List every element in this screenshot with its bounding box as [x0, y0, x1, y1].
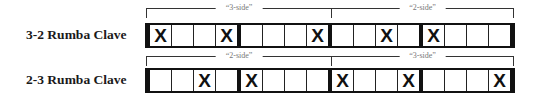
- grid-cell: [263, 70, 285, 91]
- grid-cell: [172, 70, 194, 91]
- grid-cell: [172, 25, 194, 46]
- grid-cell: [307, 70, 332, 91]
- grid-cell: [376, 70, 398, 91]
- side-bracket-right: “3-side”: [331, 56, 514, 66]
- grid-cell: [489, 25, 510, 46]
- grid-cell: [467, 25, 489, 46]
- row-label: 2-3 Rumba Clave: [26, 72, 136, 88]
- grid-cell: [332, 25, 354, 46]
- side-bracket-left: “3-side”: [146, 8, 332, 18]
- side-label: “2-side”: [399, 3, 446, 13]
- grid-cell: [467, 70, 489, 91]
- side-bracket-right: “2-side”: [331, 8, 514, 18]
- row-label: 3-2 Rumba Clave: [26, 27, 136, 43]
- grid-cell: [445, 25, 467, 46]
- side-label: “3-side”: [216, 3, 263, 13]
- grid-cell: X: [150, 25, 172, 46]
- grid-cell: X: [241, 70, 263, 91]
- grid-cell: X: [376, 25, 398, 46]
- grid-cell: X: [216, 25, 241, 46]
- grid-cell: [285, 70, 307, 91]
- grid-cell: [216, 70, 241, 91]
- rhythm-grid: X X X X X: [145, 23, 515, 48]
- side-label: “3-side”: [399, 51, 446, 61]
- grid-cell: X: [194, 70, 216, 91]
- grid-cell: [354, 25, 376, 46]
- grid-cell: [150, 70, 172, 91]
- side-label: “2-side”: [216, 51, 263, 61]
- grid-cell: [285, 25, 307, 46]
- grid-cell: X: [423, 25, 445, 46]
- grid-cell: X: [489, 70, 510, 91]
- grid-cell: [194, 25, 216, 46]
- grid-cell: [423, 70, 445, 91]
- grid-cell: [445, 70, 467, 91]
- rhythm-grid: X X X X X: [145, 68, 515, 93]
- grid-cell: X: [398, 70, 423, 91]
- grid-cell: [398, 25, 423, 46]
- grid-cell: X: [307, 25, 332, 46]
- grid-cell: [241, 25, 263, 46]
- grid-cell: [354, 70, 376, 91]
- grid-cell: X: [332, 70, 354, 91]
- side-bracket-left: “2-side”: [146, 56, 332, 66]
- grid-cell: [263, 25, 285, 46]
